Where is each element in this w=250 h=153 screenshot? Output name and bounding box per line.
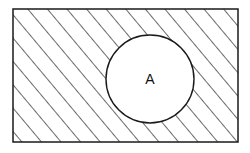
set-a-label: A: [145, 71, 155, 87]
venn-diagram: A: [0, 0, 250, 153]
